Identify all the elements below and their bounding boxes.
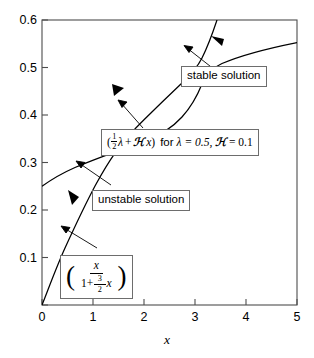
- x-tick-label-1: 1: [83, 310, 103, 324]
- y-tick-label-0.4: 0.4: [3, 108, 37, 122]
- y-tick-label-0.2: 0.2: [3, 203, 37, 217]
- flow-arrow-left-icon: [211, 36, 224, 46]
- x-tick-label-2: 2: [134, 310, 154, 324]
- fraction-expr-body: x 1+32x: [77, 259, 116, 295]
- fraction-expr-den-var: x: [106, 278, 111, 290]
- fraction-expr-den-three-halves: 32: [94, 275, 106, 295]
- fraction-expr-numerator: x: [90, 259, 103, 274]
- line-expr-for: for: [155, 137, 176, 149]
- callout-unstable-solution: unstable solution: [92, 190, 190, 211]
- y-tick-label-0.5: 0.5: [3, 61, 37, 75]
- y-axis-ticks: [42, 20, 48, 305]
- leader-arrow-fraction-expr-icon: [61, 226, 70, 233]
- callout-line-expression: (12λ+ℋx)forλ = 0.5,ℋ= 0.1: [101, 129, 259, 156]
- x-tick-label-0: 0: [32, 310, 52, 324]
- plot-canvas: [0, 0, 314, 358]
- fraction-expr-denominator: 1+32x: [77, 274, 116, 295]
- fraction-expr-left-paren: (: [66, 265, 75, 288]
- line-expr-plus: +: [123, 137, 134, 149]
- flow-arrow-down-icon: [68, 190, 79, 205]
- line-expr-script-h-2: ℋ: [215, 137, 226, 149]
- callout-stable-solution: stable solution: [181, 66, 267, 87]
- flow-arrow-up-right-icon: [112, 84, 124, 96]
- line-expr-half-fraction: 12: [111, 133, 117, 152]
- fraction-expr-den-one-plus: 1+: [81, 278, 93, 290]
- line-expr-open-paren: (: [107, 137, 111, 149]
- y-tick-label-0.1: 0.1: [3, 251, 37, 265]
- x-tick-label-4: 4: [236, 310, 256, 324]
- x-axis-ticks: [42, 299, 297, 305]
- x-tick-label-5: 5: [287, 310, 307, 324]
- leader-line-expr: [121, 103, 143, 128]
- line-expr-lambda-value: λ = 0.5,: [177, 137, 216, 149]
- x-tick-label-3: 3: [185, 310, 205, 324]
- leader-arrow-line-expr-icon: [118, 100, 127, 108]
- line-expr-var-x: x: [144, 137, 151, 149]
- line-expr-script-h: ℋ: [133, 137, 144, 149]
- figure-root: 0.6 0.5 0.4 0.3 0.2 0.1 0 1 2 3 4 5 x st…: [0, 0, 314, 358]
- callout-fraction-expression: ( x 1+32x ): [60, 255, 133, 299]
- x-axis-title: x: [164, 332, 170, 348]
- y-tick-label-0.3: 0.3: [3, 156, 37, 170]
- y-tick-label-0.6: 0.6: [3, 13, 37, 27]
- line-expr-h-value: = 0.1: [226, 137, 253, 149]
- fraction-expr-right-paren: ): [118, 265, 127, 288]
